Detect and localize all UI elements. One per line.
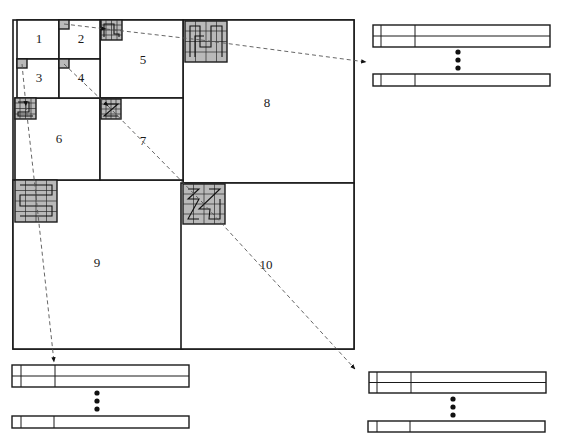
label-9: 9	[94, 255, 101, 270]
label-3: 3	[36, 70, 43, 85]
patch-9	[15, 180, 57, 222]
label-10: 10	[260, 257, 273, 272]
label-1: 1	[36, 31, 43, 46]
label-2: 2	[78, 31, 85, 46]
table-top-right	[373, 25, 550, 86]
patch-8	[185, 21, 227, 62]
table-bottom-right	[368, 372, 546, 432]
patch-5	[101, 20, 122, 40]
label-6: 6	[56, 131, 63, 146]
patch-4	[59, 59, 69, 68]
label-5: 5	[140, 52, 147, 67]
label-4: 4	[78, 70, 85, 85]
quadtree-diagram: 1 2 3 4 5 6 7 8 9 10	[0, 0, 564, 443]
label-7: 7	[140, 133, 147, 148]
label-8: 8	[264, 95, 271, 110]
table-bottom-left	[12, 365, 189, 428]
